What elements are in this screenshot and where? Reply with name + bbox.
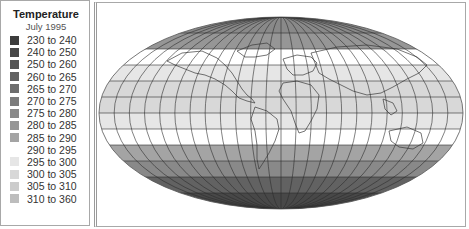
legend-label: 260 to 265	[27, 71, 77, 83]
legend-swatch	[10, 84, 19, 93]
legend-swatch	[10, 72, 19, 81]
legend-swatch	[10, 109, 19, 118]
legend-item: 240 to 250	[10, 46, 77, 58]
legend-item: 285 to 290	[10, 132, 77, 144]
legend-swatch	[10, 60, 19, 69]
legend-label: 280 to 285	[27, 119, 77, 131]
legend-swatch	[10, 97, 19, 106]
legend-swatch	[10, 194, 19, 203]
legend-label: 275 to 280	[27, 107, 77, 119]
legend-item: 265 to 270	[10, 83, 77, 95]
legend-label: 230 to 240	[27, 34, 77, 46]
legend-item: 250 to 260	[10, 58, 77, 70]
legend-label: 250 to 260	[27, 58, 77, 70]
legend-label: 310 to 360	[27, 193, 77, 205]
legend-label: 290 to 295	[27, 144, 77, 156]
legend-label: 295 to 300	[27, 156, 77, 168]
legend-list: 230 to 240240 to 250250 to 260260 to 265…	[10, 34, 77, 205]
legend-item: 260 to 265	[10, 71, 77, 83]
legend-swatch	[10, 36, 19, 45]
legend-swatch	[10, 133, 19, 142]
legend-item: 280 to 285	[10, 119, 77, 131]
legend-swatch	[10, 157, 19, 166]
map-panel	[94, 2, 466, 227]
legend-label: 265 to 270	[27, 83, 77, 95]
legend-swatch	[10, 145, 19, 154]
legend-label: 300 to 305	[27, 168, 77, 180]
legend-swatch	[10, 121, 19, 130]
legend-item: 295 to 300	[10, 156, 77, 168]
legend-label: 240 to 250	[27, 46, 77, 58]
legend-item: 230 to 240	[10, 34, 77, 46]
legend-item: 275 to 280	[10, 107, 77, 119]
legend-title: Temperature	[1, 8, 91, 20]
legend-label: 305 to 310	[27, 180, 77, 192]
temperature-map	[97, 3, 465, 226]
legend-item: 310 to 360	[10, 192, 77, 204]
legend-item: 290 to 295	[10, 144, 77, 156]
legend-swatch	[10, 182, 19, 191]
legend-subtitle: July 1995	[1, 21, 91, 32]
legend-swatch	[10, 48, 19, 57]
legend-label: 270 to 275	[27, 95, 77, 107]
legend-item: 305 to 310	[10, 180, 77, 192]
legend-item: 300 to 305	[10, 168, 77, 180]
legend-item: 270 to 275	[10, 95, 77, 107]
legend-swatch	[10, 170, 19, 179]
legend-panel: Temperature July 1995 230 to 240240 to 2…	[0, 0, 90, 226]
legend-label: 285 to 290	[27, 132, 77, 144]
